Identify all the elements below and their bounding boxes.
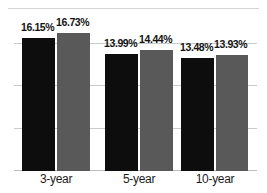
category-label-5year: 5-year bbox=[105, 173, 173, 186]
value-label-5year-series2: 14.44% bbox=[139, 34, 172, 45]
bars-group: 16.15% 16.73% 13.99% 14.44% 13.48% 13.93… bbox=[0, 14, 267, 171]
value-label-10year-series2: 13.93% bbox=[214, 39, 247, 50]
category-label-10year: 10-year bbox=[181, 173, 249, 186]
category-axis-labels: 3-year 5-year 10-year bbox=[0, 173, 267, 193]
top-divider-rule bbox=[8, 8, 259, 9]
value-label-3year-series1: 16.15% bbox=[21, 22, 54, 33]
value-label-10year-series1: 13.48% bbox=[180, 42, 213, 53]
category-label-3year: 3-year bbox=[22, 173, 90, 186]
bar-chart: 16.15% 16.73% 13.99% 14.44% 13.48% 13.93… bbox=[0, 0, 267, 193]
bar-3year-series1 bbox=[22, 38, 55, 171]
bar-10year-series2 bbox=[216, 55, 248, 171]
bar-10year-series1 bbox=[181, 58, 214, 171]
bar-3year-series2 bbox=[57, 33, 90, 171]
plot-area: 16.15% 16.73% 13.99% 14.44% 13.48% 13.93… bbox=[0, 14, 267, 171]
bar-5year-series2 bbox=[140, 50, 173, 171]
value-label-5year-series1: 13.99% bbox=[104, 38, 137, 49]
bar-5year-series1 bbox=[105, 54, 138, 171]
value-label-3year-series2: 16.73% bbox=[56, 17, 89, 28]
